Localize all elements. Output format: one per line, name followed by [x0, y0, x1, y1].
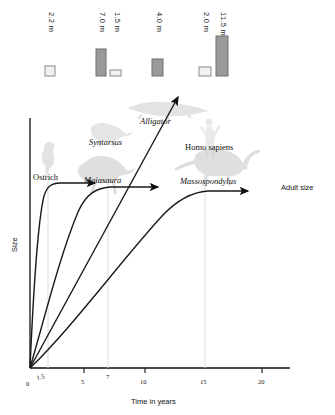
size-bar-group-3: 1.5 m — [110, 12, 122, 76]
curve-label-ostrich: Ostrich — [33, 172, 59, 182]
size-bar-group-2: 7.0 m — [96, 12, 107, 76]
x-axis-title: Time in years — [131, 397, 176, 406]
curve-label-alligator: Alligator — [139, 116, 171, 126]
curve-ostrich — [30, 183, 95, 368]
size-bar-label: 2.0 m — [202, 12, 211, 32]
size-bar-group-1: 2.2 m — [45, 12, 56, 76]
size-bar — [96, 49, 106, 76]
size-bar — [199, 67, 211, 76]
size-bar-label: 1.5 m — [113, 12, 122, 32]
size-comparison-band: 2.2 m 7.0 m 1.5 m 4.0 m 2.0 m 11.5 m — [45, 12, 228, 76]
adult-size-label: Adult size — [281, 183, 314, 192]
size-bar-label: 7.0 m — [98, 12, 107, 32]
size-bar — [216, 36, 228, 76]
curve-labels: Ostrich Maiasaura Alligator Massospondyl… — [33, 116, 314, 192]
size-bar-label: 2.2 m — [47, 12, 56, 32]
x-tick-label-20: 20 — [258, 378, 265, 385]
growth-curves — [30, 97, 248, 368]
y-axis-title: Size — [10, 237, 19, 252]
curve-label-maiasaura: Maiasaura — [83, 175, 121, 185]
x-tick-label-7: 7 — [106, 373, 110, 380]
curve-label-massospondylus: Massospondylus — [179, 176, 237, 186]
size-bar-group-6: 11.5 m — [216, 12, 228, 76]
size-bar-group-4: 4.0 m — [152, 12, 164, 76]
x-tick-label-1-5: 1.5 — [36, 372, 45, 381]
growth-rate-figure: 2.2 m 7.0 m 1.5 m 4.0 m 2.0 m 11.5 m — [0, 0, 335, 415]
size-bar — [110, 70, 121, 76]
size-bar-group-5: 2.0 m — [199, 12, 211, 76]
curve-massospondylus — [30, 191, 248, 368]
size-bar-label: 11.5 m — [219, 12, 228, 36]
size-bar-label: 4.0 m — [155, 12, 164, 32]
size-bar — [152, 59, 163, 76]
x-tick-label-5: 5 — [81, 378, 84, 385]
species-label-homo-sapiens: Homo sapiens — [185, 142, 233, 152]
size-bar — [45, 66, 55, 76]
curve-maiasaura — [30, 187, 158, 368]
species-label-syntarsus: Syntarsus — [89, 137, 123, 147]
x-tick-label-10: 10 — [140, 378, 147, 385]
x-tick-label-15: 15 — [200, 378, 207, 385]
x-tick-label-0: 0 — [26, 380, 29, 387]
